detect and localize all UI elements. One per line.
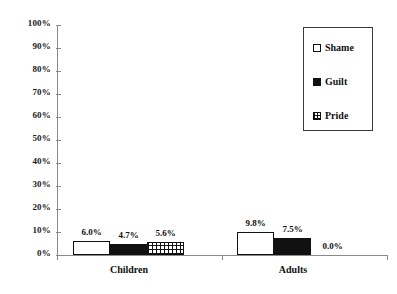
y-axis-tick-label: 90%: [32, 41, 51, 51]
y-axis-tick-mark: [56, 232, 61, 233]
legend-label: Guilt: [325, 76, 347, 87]
y-axis-tick-label: 80%: [32, 64, 51, 74]
legend-label: Pride: [325, 110, 348, 121]
x-axis-tick-mark: [387, 255, 388, 260]
y-axis-tick-mark: [56, 163, 61, 164]
legend-item-pride[interactable]: Pride: [313, 110, 348, 121]
y-axis-tick-mark: [56, 140, 61, 141]
y-axis-tick-mark: [56, 94, 61, 95]
y-axis-tick-label: 100%: [28, 18, 51, 28]
x-axis-tick-mark: [222, 255, 223, 260]
bar-value-label: 0.0%: [310, 241, 355, 251]
legend-swatch-icon: [313, 44, 321, 52]
y-axis-tick-mark: [56, 186, 61, 187]
y-axis-tick-mark: [56, 25, 61, 26]
y-axis-tick-label: 50%: [32, 133, 51, 143]
y-axis-tick-label: 0%: [37, 248, 51, 258]
legend-swatch-icon: [313, 78, 321, 86]
bar-guilt-adults: [274, 238, 311, 255]
y-axis-tick-mark: [56, 48, 61, 49]
chart-legend: ShameGuiltPride: [303, 27, 373, 131]
bar-shame-children: [73, 241, 110, 255]
legend-item-shame[interactable]: Shame: [313, 42, 354, 53]
y-axis-tick-mark: [56, 209, 61, 210]
legend-label: Shame: [325, 42, 354, 53]
bar-guilt-children: [110, 244, 147, 255]
x-axis-tick-mark: [57, 255, 58, 260]
legend-swatch-icon: [313, 112, 321, 120]
y-axis-tick-mark: [56, 117, 61, 118]
y-axis-tick-label: 70%: [32, 87, 51, 97]
y-axis-tick-label: 40%: [32, 156, 51, 166]
x-axis-category-label: Children: [79, 264, 179, 275]
bar-shame-adults: [237, 232, 274, 255]
y-axis-tick-label: 30%: [32, 179, 51, 189]
y-axis-tick-label: 60%: [32, 110, 51, 120]
bar-value-label: 5.6%: [143, 228, 188, 238]
legend-item-guilt[interactable]: Guilt: [313, 76, 347, 87]
y-axis-tick-label: 10%: [32, 225, 51, 235]
bar-pride-children: [147, 242, 184, 255]
bar-value-label: 7.5%: [270, 224, 315, 234]
y-axis-tick-mark: [56, 71, 61, 72]
x-axis-category-label: Adults: [243, 264, 343, 275]
bar-chart: 0%10%20%30%40%50%60%70%80%90%100% Childr…: [0, 0, 397, 294]
y-axis-tick-label: 20%: [32, 202, 51, 212]
